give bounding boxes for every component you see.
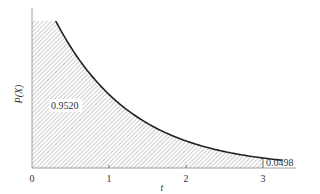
area-tail-label: 0.0498: [266, 157, 294, 168]
x-tick-label-2: 2: [184, 173, 189, 184]
y-axis-label: P(X): [13, 84, 25, 105]
x-tick-label-3: 3: [261, 173, 266, 184]
exponential-density-chart: 0 1 2 3 t P(X) 0.9520 0.0498: [0, 0, 320, 194]
x-tick-label-0: 0: [30, 173, 35, 184]
area-main-label: 0.9520: [51, 100, 79, 111]
x-tick-label-1: 1: [107, 173, 112, 184]
x-axis-label: t: [161, 182, 164, 193]
shaded-area-region: [32, 21, 263, 168]
